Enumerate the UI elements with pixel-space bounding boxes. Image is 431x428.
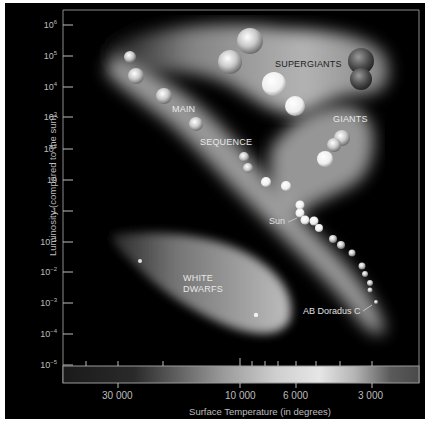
y-tick-label: 10−5	[17, 359, 57, 370]
sequence-label: SEQUENCE	[200, 137, 252, 147]
dwarfs-label: DWARFS	[183, 284, 223, 294]
sun-annotation: Sun	[269, 216, 285, 226]
x-tick-label: 3 000	[358, 390, 383, 401]
y-tick-label: 106	[17, 19, 57, 30]
y-axis-title: Luminosity (compared to the sun)	[47, 86, 58, 286]
y-axis-ticks	[63, 25, 73, 365]
supergiants-label: SUPERGIANTS	[275, 59, 342, 69]
x-tick-label: 6 000	[283, 390, 308, 401]
y-tick-label: 105	[17, 50, 57, 61]
giants-label: GIANTS	[333, 114, 368, 124]
main-label: MAIN	[172, 104, 195, 114]
hr-diagram-plot	[0, 0, 431, 428]
x-tick-label: 30 000	[102, 390, 133, 401]
temperature-color-bar	[63, 366, 419, 383]
white-label: WHITE	[183, 273, 213, 283]
y-tick-label: 10−3	[17, 297, 57, 308]
y-tick-label: 10−4	[17, 328, 57, 339]
x-axis-title: Surface Temperature (in degrees)	[150, 406, 370, 417]
x-tick-label: 10 000	[225, 390, 256, 401]
ab-doradus-annotation: AB Doradus C	[303, 306, 361, 316]
